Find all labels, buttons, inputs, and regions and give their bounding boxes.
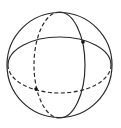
intersection-point-lower-left: [34, 87, 38, 91]
intersection-point-upper-right: [81, 40, 85, 44]
sphere-diagram: [0, 0, 121, 128]
sphere-outline: [7, 13, 112, 118]
equator-front-arc: [8, 37, 111, 65]
equator-hidden-arc: [8, 65, 111, 93]
meridian-hidden-arc: [34, 12, 59, 118]
meridian-front-arc: [60, 12, 86, 118]
